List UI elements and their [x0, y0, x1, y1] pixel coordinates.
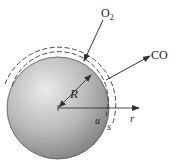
co-arrow: [106, 56, 150, 80]
co-label: CO: [151, 48, 168, 62]
outer-surface-label: s: [107, 121, 111, 132]
oxygen-label: O2: [101, 6, 114, 22]
diagram-canvas: O2 CO R r u s: [0, 0, 177, 165]
inner-surface-label: u: [95, 115, 100, 126]
radius-label: R: [69, 86, 78, 101]
radial-axis-label: r: [130, 112, 135, 124]
oxygen-arrow: [84, 20, 103, 61]
